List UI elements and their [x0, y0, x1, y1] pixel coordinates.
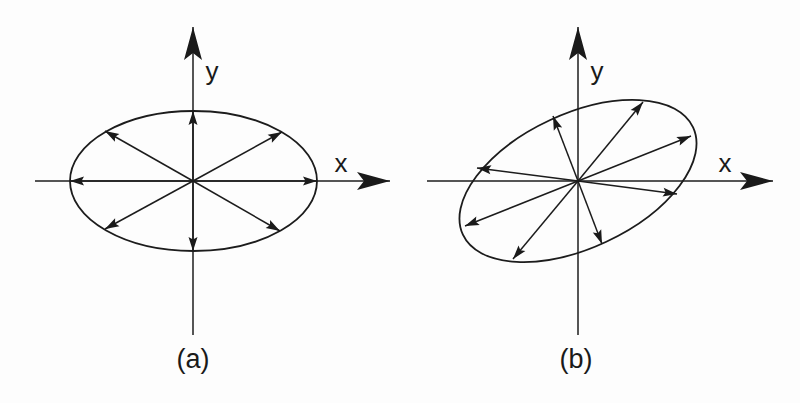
- vector-line: [513, 181, 578, 259]
- vector-line: [193, 132, 282, 181]
- vector-arrow-icon: [266, 220, 280, 231]
- vector-arrow-icon: [268, 132, 282, 143]
- panel-b-y-axis-label: y: [591, 56, 604, 86]
- vector-line: [477, 168, 578, 181]
- panel-a: x y (a): [35, 27, 390, 374]
- panel-b-caption: (b): [560, 344, 593, 374]
- panel-a-caption: (a): [177, 344, 210, 374]
- panel-a-x-axis-label: x: [335, 148, 348, 178]
- vector-line: [578, 136, 691, 181]
- panel-a-y-axis-label: y: [206, 56, 219, 86]
- vector-line: [193, 181, 280, 231]
- vector-line: [105, 181, 193, 229]
- vector-line: [578, 102, 643, 181]
- vector-arrow-icon: [105, 218, 119, 229]
- vector-arrow-icon: [105, 131, 119, 142]
- vector-line: [465, 181, 578, 226]
- vector-line: [578, 181, 677, 194]
- panel-b-x-axis-label: x: [719, 148, 732, 178]
- vector-line: [105, 131, 193, 181]
- panel-b: x y (b): [427, 27, 773, 374]
- ellipse-figure: x y (a) x y (b): [0, 0, 800, 403]
